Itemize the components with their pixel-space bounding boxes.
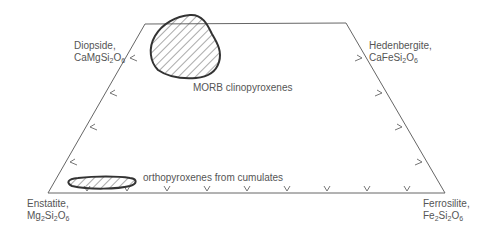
hedenbergite-formula: CaFeSi2O6 <box>369 52 432 64</box>
pyroxene-quadrilateral-diagram <box>0 0 493 233</box>
orthopyroxenes-cumulates-label: orthopyroxenes from cumulates <box>143 172 283 184</box>
right-edge-ticks <box>355 55 422 165</box>
hedenbergite-name: Hedenbergite, <box>369 40 432 52</box>
morb-clinopyroxenes-label: MORB clinopyroxenes <box>193 82 292 94</box>
diopside-name: Diopside, <box>74 40 125 52</box>
diopside-formula: CaMgSi2O6 <box>74 52 125 64</box>
enstatite-label: Enstatite, Mg2Si2O6 <box>27 198 69 222</box>
left-edge-ticks <box>70 55 137 165</box>
morb-clinopyroxene-field <box>151 15 220 78</box>
enstatite-name: Enstatite, <box>27 198 69 210</box>
orthopyroxene-cumulate-field <box>68 177 135 189</box>
ferrosilite-label: Ferrosilite, Fe2Si2O6 <box>423 198 470 222</box>
enstatite-formula: Mg2Si2O6 <box>27 210 69 222</box>
ferrosilite-name: Ferrosilite, <box>423 198 470 210</box>
bottom-edge-ticks <box>84 186 410 191</box>
diopside-label: Diopside, CaMgSi2O6 <box>74 40 125 64</box>
hedenbergite-label: Hedenbergite, CaFeSi2O6 <box>369 40 432 64</box>
ferrosilite-formula: Fe2Si2O6 <box>423 210 470 222</box>
